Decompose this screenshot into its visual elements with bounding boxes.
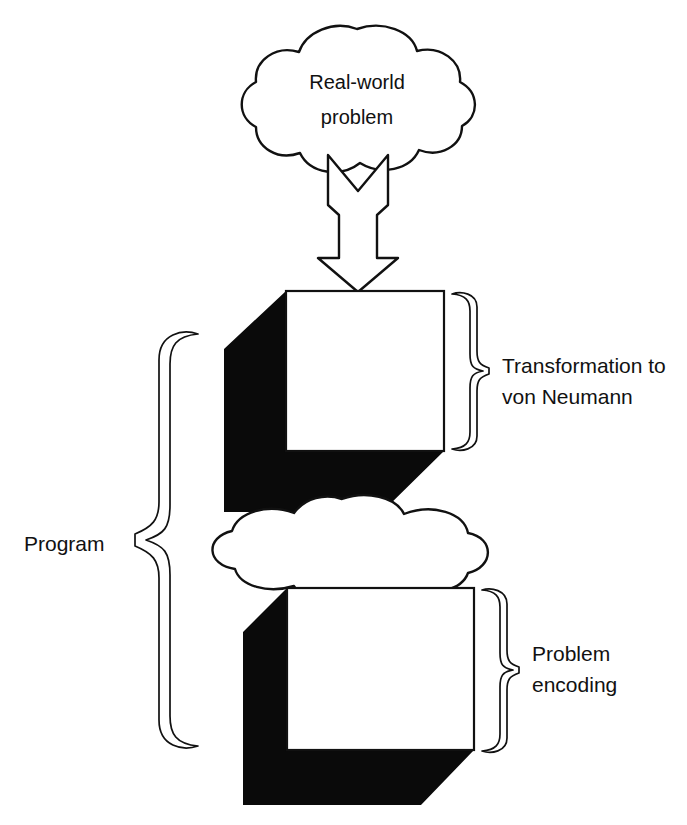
middle-cloud-shape <box>212 495 487 602</box>
bottom-cube-front-face <box>287 588 474 750</box>
top-cloud-line2: problem <box>321 106 393 128</box>
transformation-label-line2: von Neumann <box>502 385 633 408</box>
top-cloud-node: Real-world problem <box>242 26 475 172</box>
left-curly-brace-icon <box>135 332 198 748</box>
program-annotation: Program <box>24 332 198 748</box>
bottom-cube-node <box>243 588 474 805</box>
problem-encoding-label-line1: Problem <box>532 642 610 665</box>
problem-encoding-label-line2: encoding <box>532 673 617 696</box>
top-cloud-line1: Real-world <box>309 71 405 93</box>
top-cube-node <box>224 291 444 512</box>
right-curly-brace-icon-top <box>452 293 489 450</box>
cloud-shape <box>242 26 475 172</box>
diagram-svg: Real-world problem Trans <box>0 0 687 825</box>
right-curly-brace-icon-bottom <box>482 589 519 752</box>
transformation-annotation: Transformation to von Neumann <box>452 293 666 450</box>
middle-cloud-node <box>212 495 487 602</box>
transformation-label-line1: Transformation to <box>502 354 666 377</box>
problem-encoding-annotation: Problem encoding <box>482 589 617 752</box>
top-cube-front-face <box>286 291 444 451</box>
program-label: Program <box>24 532 105 555</box>
diagram-canvas: Real-world problem Trans <box>0 0 687 825</box>
hollow-arrow-shape <box>318 155 398 292</box>
down-arrow-connector <box>318 155 398 292</box>
